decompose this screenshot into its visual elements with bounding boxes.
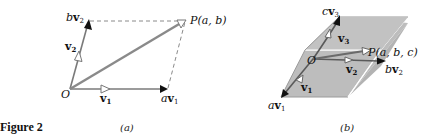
panel-b-diagram: O v1 av1 v2 bv2 v3 cv3 P(a, b, c)	[268, 5, 418, 113]
av1-label: av1	[268, 99, 285, 113]
panel-a-caption: (a)	[120, 122, 134, 133]
bv2-label: bv2	[385, 63, 403, 77]
vector-op-diagonal	[70, 24, 180, 90]
figure-canvas: O v1 av1 v2 bv2 P(a, b)	[0, 0, 436, 135]
figure-caption-label: Figure 2	[0, 120, 43, 134]
dashed-line-right	[168, 22, 185, 88]
origin-label: O	[61, 88, 70, 101]
point-p-label: P(a, b, c)	[367, 46, 418, 59]
cv3-label: cv3	[322, 5, 339, 19]
panel-b-caption: (b)	[340, 122, 354, 133]
v2-label: v2	[64, 40, 76, 54]
v1-label: v1	[99, 92, 111, 106]
origin-label: O	[307, 54, 316, 67]
panel-a-diagram: O v1 av1 v2 bv2 P(a, b)	[61, 11, 227, 106]
av1-label: av1	[161, 92, 178, 106]
bv2-label: bv2	[66, 11, 84, 25]
point-p-label: P(a, b)	[189, 14, 227, 27]
